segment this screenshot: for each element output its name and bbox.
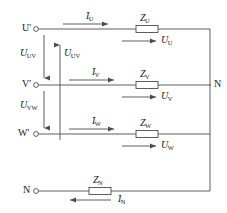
terminal-node-u (34, 27, 39, 32)
voltage-label-uvw-left: ·UVW (20, 100, 38, 110)
current-label-iu: ·IU (86, 11, 94, 21)
terminal-label-w-prime: W' (18, 128, 29, 138)
current-label-in: ·IN (118, 194, 126, 204)
voltage-label-uuv-left: ·UUV (20, 48, 37, 58)
terminal-node-n (34, 189, 39, 194)
terminal-node-w (34, 132, 39, 137)
impedance-label-zv: ZV (140, 69, 150, 79)
impedance-box-zv (136, 82, 158, 89)
terminal-label-v-prime: V' (22, 79, 31, 89)
voltage-label-uu: ·UU (161, 35, 173, 45)
impedance-label-zu: ZU (140, 13, 150, 23)
voltage-label-uv: ·UV (161, 91, 173, 101)
terminal-label-n-right: N (214, 79, 221, 89)
voltage-label-uw: ·UW (161, 140, 174, 150)
terminal-label-u-prime: U' (22, 23, 31, 33)
impedance-label-zw: ZW (140, 118, 152, 128)
terminal-label-n-left: N (23, 185, 30, 195)
impedance-box-zu (136, 26, 158, 33)
current-label-iw: ·IW (92, 116, 101, 126)
impedance-box-zw (136, 131, 158, 138)
circuit-diagram: U' V' W' N N ZU ZV ZW ZN ·IU ·IV ·IW ·IN… (0, 0, 227, 213)
impedance-box-zn (89, 188, 111, 195)
current-label-iv: ·IV (92, 67, 100, 77)
impedance-label-zn: ZN (93, 175, 103, 185)
voltage-label-uuv-inner: ·UUV (64, 48, 81, 58)
terminal-node-v (34, 83, 39, 88)
